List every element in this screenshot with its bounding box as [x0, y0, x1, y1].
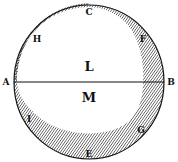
- label-m: M: [82, 91, 96, 104]
- label-a: A: [3, 78, 10, 87]
- label-h: H: [33, 35, 42, 44]
- label-l: L: [84, 60, 93, 73]
- label-i: I: [27, 115, 31, 124]
- label-c: C: [85, 8, 92, 17]
- shaded-crescent: [0, 0, 178, 162]
- diagram-drawing: [0, 0, 178, 162]
- label-b: B: [167, 78, 175, 87]
- label-f: F: [140, 35, 146, 44]
- circle-diagram: C H F L A B M I G E: [0, 0, 178, 162]
- label-e: E: [86, 150, 93, 159]
- label-g: G: [137, 126, 145, 135]
